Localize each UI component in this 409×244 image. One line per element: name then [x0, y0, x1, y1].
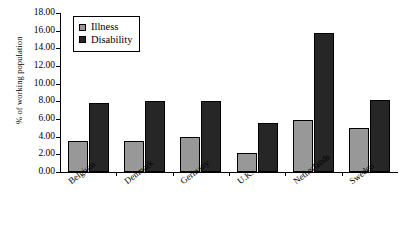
y-axis-tick [56, 154, 60, 155]
y-axis-tick [56, 48, 60, 49]
legend-item-disability: Disability [79, 35, 132, 46]
y-axis-tick-label: 10.00 [34, 79, 55, 89]
y-axis-tick [56, 84, 60, 85]
bar-chart: % of working population 0.002.004.006.00… [0, 0, 409, 244]
y-axis-tick-label: 2.00 [38, 150, 55, 160]
y-axis-tick [56, 119, 60, 120]
y-axis-tick-label: 8.00 [38, 97, 55, 107]
bar-group [349, 13, 390, 172]
x-axis-tick [173, 172, 174, 176]
bar-group [293, 13, 334, 172]
y-axis-tick-label: 4.00 [38, 132, 55, 142]
x-axis-tick [116, 172, 117, 176]
y-axis-tick [56, 13, 60, 14]
y-axis-tick-label: 16.00 [34, 26, 55, 36]
legend-label-disability: Disability [91, 35, 132, 46]
x-axis-tick [285, 172, 286, 176]
bar-u-k-disability [258, 123, 278, 172]
y-axis-tick-label: 0.00 [38, 167, 55, 177]
x-axis-tick [342, 172, 343, 176]
y-axis-title: % of working population [15, 5, 24, 155]
y-axis-tick [56, 31, 60, 32]
y-axis-line [60, 13, 61, 172]
x-axis-tick [229, 172, 230, 176]
y-axis-tick [56, 172, 60, 173]
legend-item-illness: Illness [79, 22, 132, 33]
legend-swatch-icon-illness [79, 24, 86, 31]
bar-sweden-disability [370, 100, 390, 172]
legend-swatch-icon-disability [79, 36, 86, 43]
y-axis-tick [56, 101, 60, 102]
y-axis-tick-label: 14.00 [34, 44, 55, 54]
y-axis-tick-label: 18.00 [34, 8, 55, 18]
bar-group [180, 13, 221, 172]
bar-group [237, 13, 278, 172]
y-axis-tick-label: 6.00 [38, 114, 55, 124]
y-axis-tick [56, 66, 60, 67]
legend-label-illness: Illness [91, 22, 118, 33]
y-axis-tick [56, 137, 60, 138]
y-axis-tick-label: 12.00 [34, 61, 55, 71]
chart-legend: Illness Disability [73, 16, 140, 52]
